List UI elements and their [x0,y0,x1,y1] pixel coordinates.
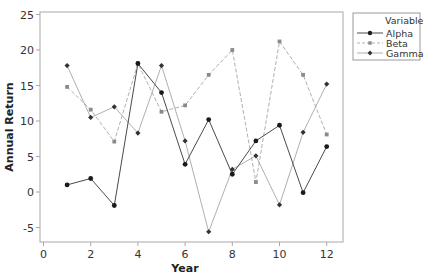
x-tick-label: 8 [229,248,236,261]
x-tick-label: 10 [273,248,287,261]
y-tick-label: 25 [20,9,34,22]
data-point-alpha [159,90,164,95]
data-point-alpha [112,203,117,208]
y-tick-label: 20 [20,44,34,57]
data-point-beta [89,108,93,112]
y-tick-label: 0 [27,186,34,199]
x-tick-label: 2 [87,248,94,261]
data-point-beta [65,85,69,89]
x-axis: 024681012 [40,242,334,261]
square-marker-icon [368,41,371,44]
legend-label-gamma: Gamma [386,48,424,59]
data-point-beta [112,140,116,144]
data-point-beta [254,180,258,184]
plot-area [40,12,343,242]
data-point-alpha [230,172,235,177]
data-point-alpha [136,61,141,66]
data-point-beta [207,73,211,77]
data-point-alpha [324,144,329,149]
data-point-alpha [88,176,93,181]
data-point-beta [278,40,282,44]
data-point-beta [301,73,305,77]
x-tick-label: 6 [182,248,189,261]
data-point-beta [325,133,329,137]
data-point-alpha [65,183,70,188]
data-point-alpha [254,138,259,143]
data-point-alpha [277,123,282,128]
legend-title: Variable [385,15,424,26]
x-tick-label: 0 [40,248,47,261]
x-tick-label: 12 [320,248,334,261]
y-tick-label: 5 [27,151,34,164]
data-point-beta [183,103,187,107]
circle-marker-icon [368,31,372,35]
y-tick-label: -5 [23,222,34,235]
y-tick-label: 10 [20,115,34,128]
data-point-beta [230,48,234,52]
data-point-alpha [183,162,188,167]
y-tick-label: 15 [20,80,34,93]
x-axis-title: Year [170,262,199,275]
data-point-beta [160,110,164,114]
y-axis-title: Annual Return [3,82,16,171]
data-point-alpha [206,117,211,122]
y-axis: -50510152025 [20,9,40,235]
line-chart: -50510152025 024681012 Annual Return Yea… [0,0,428,279]
x-tick-label: 4 [134,248,141,261]
legend: Variable Alpha Beta Gamma [353,13,424,60]
data-point-alpha [301,190,306,195]
